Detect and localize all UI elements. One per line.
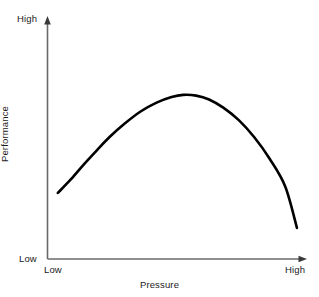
- y-axis-high-tick-label: High: [17, 14, 37, 24]
- y-axis-title: Performance: [0, 106, 10, 162]
- performance-curve-line: [58, 95, 297, 228]
- y-axis-low-tick-label: Low: [19, 254, 37, 264]
- x-axis-high-tick-label: High: [285, 265, 305, 275]
- axes-group: [44, 16, 307, 262]
- x-axis-low-tick-label: Low: [44, 265, 62, 275]
- x-axis-arrowhead: [299, 256, 308, 263]
- data-series-group: [58, 95, 297, 228]
- y-axis-arrowhead: [44, 16, 51, 25]
- plot-area: [0, 0, 319, 297]
- x-axis-title: Pressure: [0, 280, 319, 290]
- chart-container: High Low Low High Pressure Performance: [0, 0, 319, 297]
